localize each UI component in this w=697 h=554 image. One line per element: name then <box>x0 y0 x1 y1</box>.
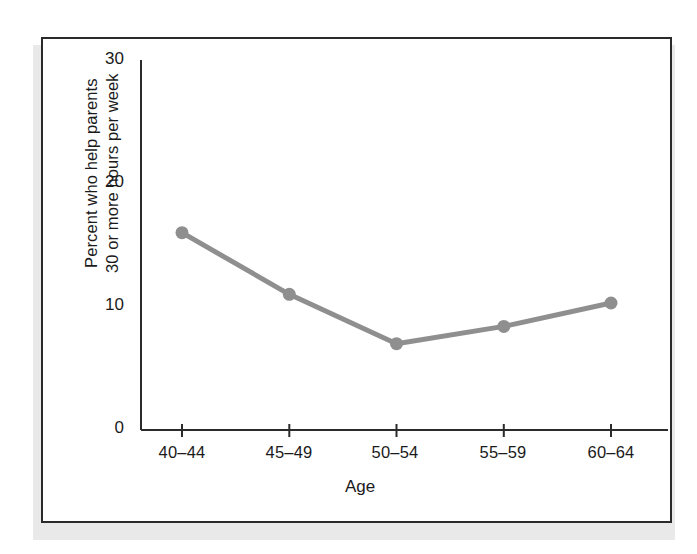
y-tick-label-20: 20 <box>78 172 124 192</box>
y-tick-label-0: 0 <box>78 418 124 438</box>
x-tick-label-45-49: 45–49 <box>234 443 344 462</box>
x-tick-label-50-54: 50–54 <box>340 443 450 462</box>
x-tick-label-55-59: 55–59 <box>448 443 558 462</box>
x-tick-label-40-44: 40–44 <box>127 443 237 462</box>
x-axis-title: Age <box>300 477 420 497</box>
x-tick-label-60-64: 60–64 <box>556 443 666 462</box>
y-tick-label-30: 30 <box>78 49 124 69</box>
y-tick-label-10: 10 <box>78 295 124 315</box>
